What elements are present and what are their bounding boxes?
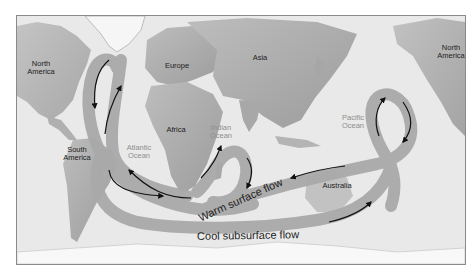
antarctica-landmass (17, 242, 465, 264)
label-africa: Africa (161, 126, 191, 134)
figure-page: North America South America Europe Asia … (0, 0, 476, 279)
label-pacific-ocean: Pacific Ocean (333, 114, 373, 130)
label-europe: Europe (157, 62, 197, 70)
label-cool-subsurface-flow: Cool subsurface flow (197, 228, 299, 242)
label-north-america-west: North America (19, 60, 63, 76)
label-asia: Asia (245, 54, 275, 62)
central-america-landmass (47, 116, 77, 140)
label-indian-ocean: Indian Ocean (201, 124, 241, 140)
greenland-landmass (85, 16, 145, 52)
indonesia-landmass (275, 136, 321, 148)
label-australia: Australia (317, 182, 357, 190)
label-atlantic-ocean: Atlantic Ocean (117, 144, 161, 160)
map-canvas (17, 16, 465, 264)
world-map: North America South America Europe Asia … (16, 15, 466, 265)
india-landmass (239, 100, 261, 132)
label-north-america-east: North America (433, 44, 466, 60)
label-south-america: South America (55, 146, 99, 162)
